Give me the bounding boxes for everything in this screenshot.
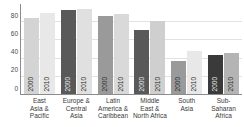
bar: 2010	[224, 53, 239, 94]
bar-group: 20002010	[95, 4, 132, 94]
gridline-0: 0	[21, 94, 242, 95]
bar-year-label: 2000	[212, 77, 219, 91]
bar-year-label: 2010	[191, 77, 198, 91]
bar: 2000	[24, 18, 39, 95]
category-label: Europe &CentralAsia	[58, 97, 95, 120]
y-tick-label-0: 0	[14, 85, 18, 92]
category-label: MiddleEast &North Africa	[131, 97, 168, 120]
bar-year-label: 2000	[139, 77, 146, 91]
bar: 2010	[150, 21, 165, 94]
y-tick-label-20: 20	[11, 67, 18, 74]
bar: 2000	[134, 30, 149, 94]
bar: 2000	[61, 10, 76, 94]
bar-group: 20002010	[205, 4, 242, 94]
y-tick-label-80: 80	[11, 12, 18, 19]
bar-chart: 020406080 200020102000201020002010200020…	[0, 0, 244, 127]
bar-year-label: 2000	[65, 77, 72, 91]
bar-group: 20002010	[131, 4, 168, 94]
y-tick-label-40: 40	[11, 49, 18, 56]
bar: 2010	[77, 9, 92, 95]
bar-group: 20002010	[58, 4, 95, 94]
bar-year-label: 2000	[175, 77, 182, 91]
bar-groups: 2000201020002010200020102000201020002010…	[21, 4, 242, 94]
bar-year-label: 2010	[44, 77, 51, 91]
bar-year-label: 2010	[118, 77, 125, 91]
bar-group: 20002010	[21, 4, 58, 94]
category-labels: EastAsia &PacificEurope &CentralAsiaLati…	[21, 97, 242, 120]
category-label: SouthAsia	[168, 97, 205, 120]
y-tick-label-60: 60	[11, 31, 18, 38]
bar: 2010	[40, 13, 55, 94]
category-label: EastAsia &Pacific	[21, 97, 58, 120]
category-label: Sub-SaharanAfrica	[205, 97, 242, 120]
bar: 2010	[187, 51, 202, 94]
bar-year-label: 2010	[155, 77, 162, 91]
bar-year-label: 2000	[102, 77, 109, 91]
category-label: LatinAmerica &Caribbean	[95, 97, 132, 120]
bar: 2000	[98, 16, 113, 94]
bar-group: 20002010	[168, 4, 205, 94]
bar: 2000	[208, 55, 223, 94]
bar: 2010	[114, 14, 129, 94]
bar: 2000	[171, 61, 186, 94]
bar-year-label: 2010	[228, 77, 235, 91]
plot-area: 020406080 200020102000201020002010200020…	[20, 4, 242, 95]
bar-year-label: 2010	[81, 77, 88, 91]
bar-year-label: 2000	[28, 77, 35, 91]
